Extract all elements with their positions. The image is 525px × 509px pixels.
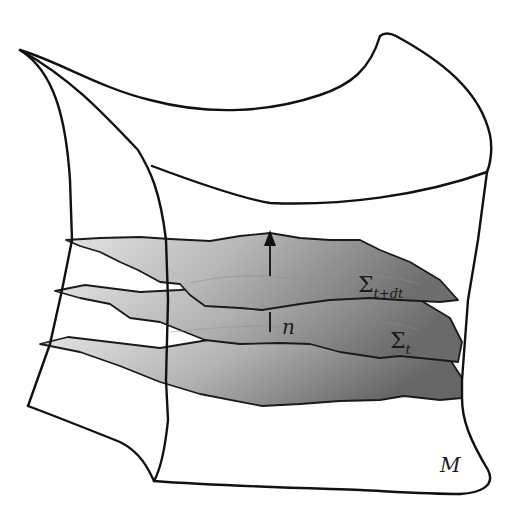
foliation-diagram: n Σt+dt Σt M — [0, 0, 525, 509]
manifold-label: M — [439, 453, 461, 477]
normal-label: n — [282, 315, 295, 339]
